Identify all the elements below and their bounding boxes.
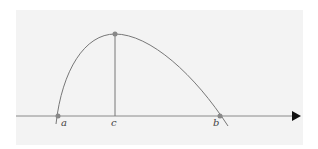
- function-diagram: [0, 0, 318, 149]
- x-axis-arrow-icon: [292, 111, 301, 121]
- function-curve: [56, 34, 228, 126]
- point-c-maximum: [113, 32, 118, 37]
- label-c: c: [111, 117, 117, 128]
- label-a: a: [61, 117, 67, 128]
- point-a: [56, 114, 61, 119]
- label-b: b: [213, 117, 219, 128]
